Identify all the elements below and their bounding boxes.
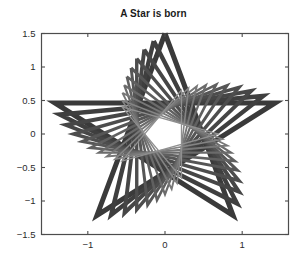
x-tick-label: 0: [162, 239, 167, 250]
star-series-group: [55, 34, 275, 216]
y-tick-label: 0: [30, 128, 35, 139]
plot-area: −101−1.5−1−0.500.511.5: [0, 0, 307, 260]
y-tick-label: 1.5: [22, 28, 35, 39]
x-tick-label: −1: [82, 239, 93, 250]
y-tick-label: 1: [30, 61, 35, 72]
figure-canvas: A Star is born −101−1.5−1−0.500.511.5: [0, 0, 307, 260]
y-tick-label: −0.5: [17, 162, 36, 173]
x-tick-label: 1: [240, 239, 245, 250]
y-tick-label: 0.5: [22, 95, 35, 106]
y-tick-label: −1: [25, 195, 36, 206]
y-tick-label: −1.5: [17, 229, 36, 240]
